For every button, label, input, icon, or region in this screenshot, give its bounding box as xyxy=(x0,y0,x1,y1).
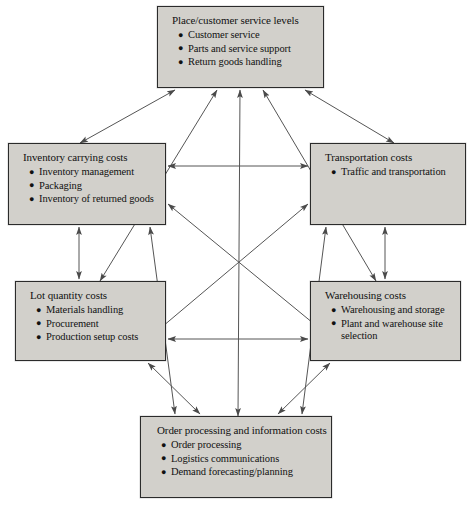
node-list-item-label: Customer service xyxy=(188,29,319,42)
node-list-item: ●Packaging xyxy=(39,180,161,193)
node-list-item-label: Demand forecasting/planning xyxy=(171,466,327,479)
node-list-inventory: ●Inventory management●Packaging●Inventor… xyxy=(9,166,165,206)
connector-transportation-to-place xyxy=(305,90,394,143)
node-list-item-label: Materials handling xyxy=(46,304,161,317)
node-list-item: ●Order processing xyxy=(171,439,327,452)
node-list-item-label: Inventory management xyxy=(39,166,161,179)
bullet-icon: ● xyxy=(161,439,166,452)
node-list-item: ●Procurement xyxy=(46,318,161,331)
connector-inventory-to-warehousing xyxy=(168,204,330,337)
node-list-item-label: Warehousing and storage xyxy=(341,304,456,317)
bullet-icon: ● xyxy=(36,304,41,317)
node-box-transportation[interactable]: Transportation costs●Traffic and transpo… xyxy=(310,143,466,225)
node-title-inventory: Inventory carrying costs xyxy=(9,151,165,164)
node-list-place: ●Customer service●Parts and service supp… xyxy=(158,29,323,69)
node-list-item-label: Order processing xyxy=(171,439,327,452)
node-list-item-label: Traffic and transportation xyxy=(341,166,461,179)
node-list-item: ●Materials handling xyxy=(46,304,161,317)
node-list-item: ●Traffic and transportation xyxy=(341,166,461,179)
bullet-icon: ● xyxy=(29,179,34,192)
node-list-item: ●Customer service xyxy=(188,29,319,42)
connector-lines xyxy=(79,90,394,416)
bullet-icon: ● xyxy=(178,56,183,69)
node-list-item-label: Production setup costs xyxy=(46,331,161,344)
bullet-icon: ● xyxy=(331,166,336,179)
bullet-icon: ● xyxy=(29,166,34,179)
bullet-icon: ● xyxy=(36,331,41,344)
node-box-place[interactable]: Place/customer service levels●Customer s… xyxy=(157,6,324,88)
node-title-warehousing: Warehousing costs xyxy=(311,289,460,302)
node-list-item: ●Logistics communications xyxy=(171,453,327,466)
node-title-place: Place/customer service levels xyxy=(158,14,323,27)
node-list-lot: ●Materials handling●Procurement●Producti… xyxy=(16,304,165,344)
node-list-item: ●Demand forecasting/planning xyxy=(171,466,327,479)
bullet-icon: ● xyxy=(331,317,336,330)
bullet-icon: ● xyxy=(331,304,336,317)
bullet-icon: ● xyxy=(178,42,183,55)
node-list-item: ●Plant and warehouse site selection xyxy=(341,318,456,343)
node-list-item-label: Plant and warehouse site selection xyxy=(341,318,456,343)
bullet-icon: ● xyxy=(178,29,183,42)
node-list-item: ●Inventory management xyxy=(39,166,161,179)
node-box-lot[interactable]: Lot quantity costs●Materials handling●Pr… xyxy=(15,281,166,361)
node-list-item: ●Return goods handling xyxy=(188,56,319,69)
node-list-item: ●Warehousing and storage xyxy=(341,304,456,317)
diagram-canvas: Place/customer service levels●Customer s… xyxy=(0,0,474,512)
node-list-item: ●Inventory of returned goods xyxy=(39,193,161,206)
node-box-order[interactable]: Order processing and information costs●O… xyxy=(140,416,332,498)
connector-warehousing-to-order xyxy=(278,363,330,414)
node-list-item-label: Inventory of returned goods xyxy=(39,193,161,206)
bullet-icon: ● xyxy=(161,452,166,465)
bullet-icon: ● xyxy=(29,193,34,206)
node-list-item-label: Logistics communications xyxy=(171,453,327,466)
node-list-item-label: Packaging xyxy=(39,180,161,193)
node-list-item-label: Return goods handling xyxy=(188,56,319,69)
node-list-order: ●Order processing●Logistics communicatio… xyxy=(141,439,331,479)
node-list-item: ●Production setup costs xyxy=(46,331,161,344)
node-list-item-label: Parts and service support xyxy=(188,43,319,56)
node-title-transportation: Transportation costs xyxy=(311,151,465,164)
connector-order-to-place xyxy=(238,90,240,416)
node-box-inventory[interactable]: Inventory carrying costs●Inventory manag… xyxy=(8,143,166,225)
node-box-warehousing[interactable]: Warehousing costs●Warehousing and storag… xyxy=(310,281,461,361)
bullet-icon: ● xyxy=(161,466,166,479)
bullet-icon: ● xyxy=(36,317,41,330)
node-title-order: Order processing and information costs xyxy=(141,424,331,437)
node-list-item: ●Parts and service support xyxy=(188,43,319,56)
node-list-transportation: ●Traffic and transportation xyxy=(311,166,465,179)
connector-transportation-to-lot xyxy=(150,204,308,337)
node-title-lot: Lot quantity costs xyxy=(16,289,165,302)
connector-inventory-to-place xyxy=(80,90,175,143)
node-list-item-label: Procurement xyxy=(46,318,161,331)
node-list-warehousing: ●Warehousing and storage●Plant and wareh… xyxy=(311,304,460,343)
